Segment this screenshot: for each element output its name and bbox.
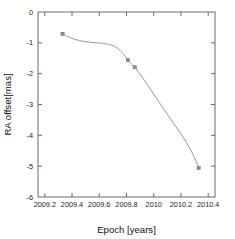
y-axis-tick-labels: 0-1-2-3-4-5-6 (27, 8, 34, 202)
ra-offset-vs-epoch-chart: 2009.22009.42009.62009.820102010.22010.4… (0, 0, 235, 239)
y-tick-label: -4 (27, 131, 34, 140)
x-tick-label: 2009.4 (61, 200, 83, 209)
y-tick-label: -5 (27, 162, 34, 171)
y-tick-label: 0 (29, 8, 33, 17)
data-point-markers (61, 32, 200, 169)
y-tick-label: -6 (27, 193, 34, 202)
y-tick-label: -2 (27, 69, 34, 78)
data-point-marker (61, 32, 64, 35)
x-tick-label: 2010 (146, 200, 162, 209)
x-axis-tick-labels: 2009.22009.42009.62009.820102010.22010.4 (34, 200, 220, 209)
x-tick-label: 2009.8 (115, 200, 137, 209)
data-point-marker (133, 66, 136, 69)
plot-frame (38, 12, 215, 197)
x-tick-label: 2010.4 (197, 200, 219, 209)
x-tick-label: 2009.2 (34, 200, 56, 209)
y-axis-title: RA offset[mas] (2, 73, 13, 135)
x-tick-label: 2010.2 (170, 200, 192, 209)
x-axis-ticks (45, 12, 208, 197)
truncated-caption (6, 230, 229, 239)
figure-container: 2009.22009.42009.62009.820102010.22010.4… (0, 0, 235, 239)
data-point-marker (197, 166, 200, 169)
data-point-marker (126, 59, 129, 62)
data-curve-line (63, 34, 199, 168)
x-tick-label: 2009.6 (88, 200, 110, 209)
y-tick-label: -3 (27, 100, 34, 109)
y-tick-label: -1 (27, 38, 34, 47)
